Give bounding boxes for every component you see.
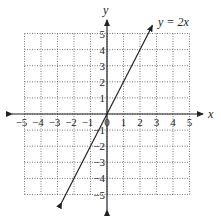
y-tick-label: 3 bbox=[100, 60, 106, 72]
coordinate-plane: x y −5−4−3−2−1012345−5−4−3−2−112345 y = … bbox=[0, 0, 221, 218]
y-tick-label: −3 bbox=[93, 156, 105, 168]
x-tick-label: −3 bbox=[49, 116, 61, 128]
x-tick-label: −5 bbox=[16, 116, 28, 128]
axes: x y bbox=[12, 3, 214, 210]
x-axis-label: x bbox=[207, 107, 214, 121]
x-tick-label: 1 bbox=[121, 116, 127, 128]
y-tick-label: 2 bbox=[100, 76, 106, 88]
line-label: y = 2x bbox=[157, 15, 189, 29]
x-tick-label: 3 bbox=[154, 116, 160, 128]
y-tick-label: 1 bbox=[100, 92, 106, 104]
y-tick-label: 4 bbox=[100, 44, 106, 56]
y-tick-label: −5 bbox=[93, 189, 105, 201]
x-tick-label: −1 bbox=[82, 116, 94, 128]
x-tick-label: 4 bbox=[170, 116, 176, 128]
y-tick-label: −2 bbox=[93, 140, 105, 152]
x-tick-label: −4 bbox=[32, 116, 44, 128]
y-axis-label: y bbox=[102, 3, 109, 17]
y-tick-label: −4 bbox=[93, 172, 105, 184]
x-tick-label: 5 bbox=[187, 116, 193, 128]
x-tick-label: −2 bbox=[65, 116, 77, 128]
x-tick-label: 2 bbox=[137, 116, 143, 128]
y-tick-label: 5 bbox=[100, 28, 106, 40]
